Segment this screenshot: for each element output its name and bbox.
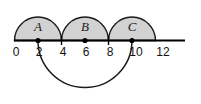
axis-tick-label-6: 6 — [83, 45, 90, 59]
axis-tick-label-4: 4 — [60, 45, 67, 59]
point-6-dot — [82, 38, 87, 43]
point-2-dot — [35, 38, 40, 43]
axis-tick-label-2: 2 — [36, 45, 43, 59]
axis-tick-label-0: 0 — [13, 45, 20, 59]
geometry-figure: A B C 0 2 4 6 8 10 12 — [0, 0, 201, 104]
semicircle-label-a: A — [33, 19, 42, 34]
semicircle-label-c: C — [128, 19, 137, 34]
figure-canvas: A B C 0 2 4 6 8 10 12 — [0, 0, 201, 104]
axis-tick-label-12: 12 — [156, 45, 170, 59]
semicircle-label-b: B — [81, 19, 89, 34]
axis-tick-label-10: 10 — [129, 45, 143, 59]
point-10-dot — [129, 38, 134, 43]
axis-tick-label-8: 8 — [107, 45, 114, 59]
